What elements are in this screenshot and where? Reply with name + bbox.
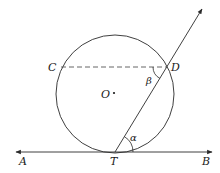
label-o: O [101, 88, 110, 101]
label-b: B [201, 155, 210, 168]
center-point [113, 92, 115, 94]
label-d: D [170, 61, 180, 74]
secant-line-td [115, 9, 202, 152]
label-alpha: α [130, 132, 137, 143]
label-t: T [110, 155, 119, 168]
angle-arc-beta [153, 67, 160, 78]
circle-tangent-diagram: C D O A T B α β [0, 0, 220, 173]
label-c: C [48, 61, 57, 74]
label-a: A [18, 155, 27, 168]
label-beta: β [145, 75, 152, 86]
circle [56, 35, 174, 153]
